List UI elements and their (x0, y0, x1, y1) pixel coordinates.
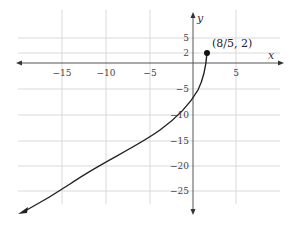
y-tick-label: −20 (170, 161, 189, 171)
y-tick-label: −10 (170, 110, 189, 120)
curve-arrow-icon (18, 207, 28, 214)
y-axis-label: y (196, 12, 204, 25)
y-tick-label: −15 (170, 136, 189, 146)
endpoint-marker (204, 50, 210, 56)
grid-vertical (62, 10, 236, 204)
y-tick-label: 2 (183, 48, 189, 58)
x-axis-right-arrow-icon (278, 61, 284, 66)
x-axis-label: x (268, 49, 275, 62)
graph: y x −15 −10 −5 5 5 2 −5 −10 −15 −20 −25 … (0, 0, 296, 228)
y-axis-down-arrow-icon (191, 209, 196, 215)
y-tick-label: −25 (170, 186, 189, 196)
x-axis-left-arrow-icon (16, 61, 22, 66)
grid-horizontal (18, 38, 280, 191)
y-tick-label: −5 (176, 84, 190, 94)
x-tick-label: −5 (143, 68, 157, 78)
y-tick-label: 5 (183, 33, 189, 43)
x-tick-label: −15 (53, 68, 72, 78)
x-tick-label: 5 (233, 68, 239, 78)
x-tick-label: −10 (97, 68, 116, 78)
y-axis-up-arrow-icon (191, 12, 196, 18)
y-axis (191, 12, 196, 215)
point-label: (8/5, 2) (212, 37, 252, 50)
